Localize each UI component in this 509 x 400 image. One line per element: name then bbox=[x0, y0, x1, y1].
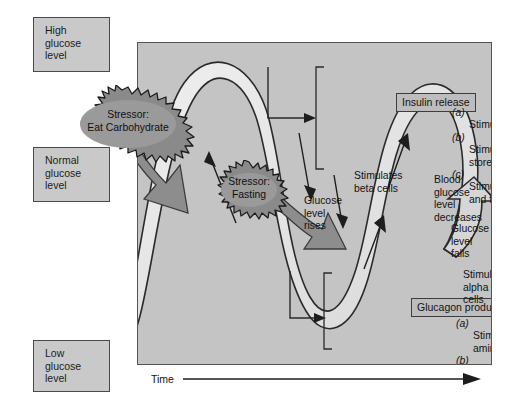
list-text: Stimulates muscles and liver to store gl… bbox=[469, 144, 492, 167]
stressor-eat-carbohydrate: Stressor: Eat Carbohydrate bbox=[57, 85, 199, 163]
list-item: (a)Stimulates cells to take in glucose bbox=[452, 107, 492, 132]
list-marker: (b) bbox=[452, 132, 465, 144]
stressor-fasting: Stressor: Fasting bbox=[206, 160, 292, 220]
insulin-connector-line bbox=[268, 67, 306, 118]
list-marker: (a) bbox=[452, 107, 465, 119]
list-item: (a)Stimulates mobilization of amino acid… bbox=[456, 318, 492, 355]
label-high-glucose-level: High glucose level bbox=[33, 17, 110, 72]
glucose-regulation-diagram: High glucose level Normal glucose level … bbox=[0, 0, 509, 400]
caption-blood-glucose-level-decreases: Blood glucose level decreases bbox=[434, 174, 491, 224]
time-axis: Time bbox=[137, 368, 492, 396]
list-marker: (a) bbox=[456, 318, 469, 330]
stressor-carbohydrate-label: Stressor: Eat Carbohydrate bbox=[57, 109, 199, 134]
caption-glucose-level-rises: Glucose level rises bbox=[304, 195, 342, 233]
caption-stimulates-beta-cells: Stimulates beta cells bbox=[354, 170, 403, 195]
caption-glucose-level-falls: Glucose level falls bbox=[451, 223, 489, 261]
list-text: Stimulates mobilization of amino acids a… bbox=[473, 330, 492, 353]
insulin-connector-arrowhead-icon bbox=[304, 113, 316, 123]
caption-stimulates-alpha-cells: Stimulates alpha cells bbox=[463, 269, 492, 307]
glucagon-production-list: (a)Stimulates mobilization of amino acid… bbox=[456, 318, 492, 365]
label-low-glucose-level: Low glucose level bbox=[33, 340, 110, 392]
list-marker: (b) bbox=[456, 355, 469, 365]
time-axis-arrow-icon bbox=[137, 368, 492, 396]
list-text: Stimulates cells to take in glucose bbox=[469, 119, 492, 130]
insulin-list-bracket bbox=[316, 67, 324, 169]
stressor-fasting-label: Stressor: Fasting bbox=[206, 176, 292, 201]
list-item: (b)Stimulates muscles and liver to store… bbox=[452, 132, 492, 169]
list-item: (b)Stimulates gluconeogenesis bbox=[456, 355, 492, 365]
